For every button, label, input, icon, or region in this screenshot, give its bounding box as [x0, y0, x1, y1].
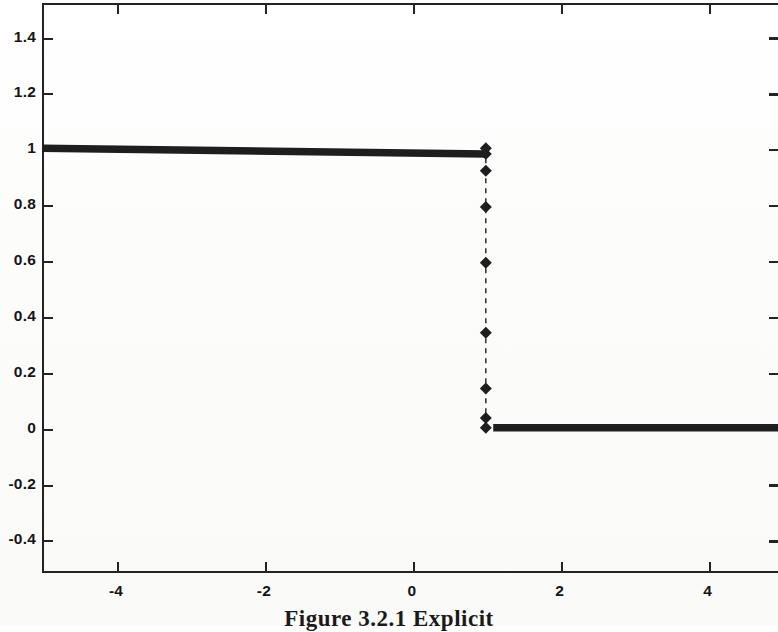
x-axis-tick-label: 2	[555, 582, 564, 600]
data-point-marker	[481, 413, 491, 423]
y-axis-tick-label: -0.2	[8, 475, 36, 493]
y-axis-tick-label: 0.6	[14, 251, 36, 269]
y-axis-tick-label: 0.2	[14, 363, 36, 381]
x-axis-tick-label: -2	[257, 582, 271, 600]
data-point-marker	[481, 328, 491, 338]
x-axis-tick-label: 0	[407, 582, 416, 600]
y-axis-tick-label: 0.8	[14, 195, 36, 213]
data-point-marker	[481, 202, 491, 212]
data-point-marker	[481, 166, 491, 176]
data-point-marker	[481, 423, 491, 433]
x-axis-tick-label: -4	[109, 582, 123, 600]
plot-data-layer	[42, 3, 778, 573]
y-axis-tick-label: 1	[27, 139, 36, 157]
data-point-marker	[481, 258, 491, 268]
figure-caption: Figure 3.2.1 Explicit	[0, 606, 778, 632]
y-axis-tick-label: 1.2	[14, 83, 36, 101]
x-axis-tick-label: 4	[703, 582, 712, 600]
y-axis-tick-label: 0	[27, 419, 36, 437]
upper-plateau-segment	[42, 148, 486, 154]
y-axis-tick-label: 0.4	[14, 307, 36, 325]
y-axis-tick-label: -0.4	[8, 530, 36, 548]
y-axis-tick-label: 1.4	[14, 28, 36, 46]
solution-curve	[42, 3, 778, 573]
data-point-marker	[481, 384, 491, 394]
